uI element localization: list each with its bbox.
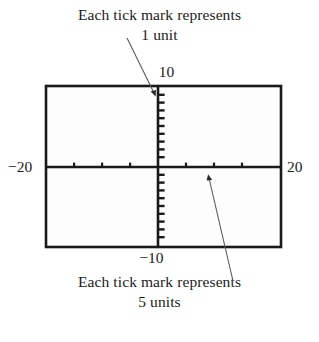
coordinate-plane-svg <box>0 0 319 342</box>
graphing-window-figure: Each tick mark represents 1 unit 10 −20 … <box>0 0 319 342</box>
